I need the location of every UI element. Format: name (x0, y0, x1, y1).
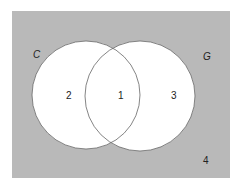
venn-diagram: C G 2 1 3 4 (0, 0, 241, 187)
set-label-g: G (203, 51, 211, 62)
region-label-3: 3 (171, 90, 177, 101)
region-label-2: 2 (66, 90, 72, 101)
region-label-4: 4 (203, 155, 209, 166)
region-label-1: 1 (118, 90, 124, 101)
set-label-c: C (33, 49, 41, 60)
